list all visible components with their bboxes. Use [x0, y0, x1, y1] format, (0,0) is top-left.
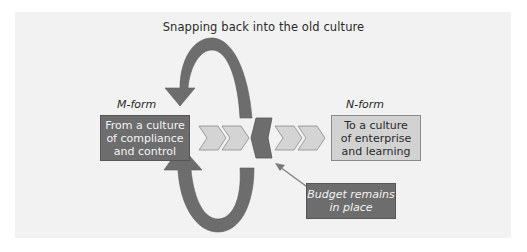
- budget-callout-box: Budget remains in place: [306, 183, 396, 219]
- diagram-graphics: [0, 0, 527, 252]
- n-form-label: N-form: [346, 98, 384, 111]
- chevron-left-1: [199, 126, 226, 150]
- m-form-label: M-form: [117, 98, 156, 111]
- top-curved-arrow: [165, 38, 252, 118]
- chevron-right-1: [275, 126, 302, 150]
- budget-barrier: [251, 118, 272, 158]
- n-form-box: To a culture of enterprise and learning: [331, 115, 421, 161]
- m-form-box: From a culture of compliance and control: [100, 115, 190, 161]
- callout-pointer-line: [280, 167, 306, 186]
